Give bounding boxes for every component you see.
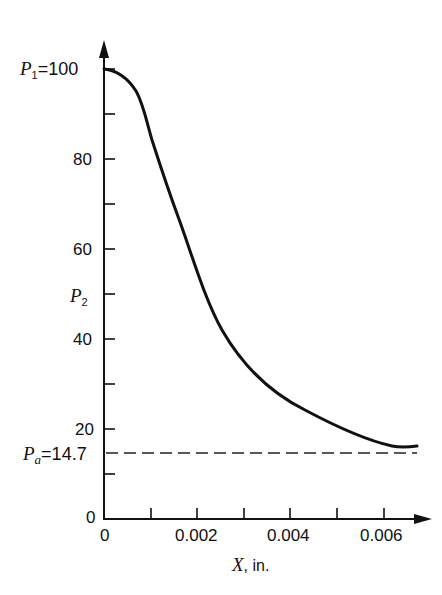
y-tick-label-60: 60 xyxy=(73,241,92,258)
x-tick-label-0: 0 xyxy=(100,527,109,544)
x-ticks xyxy=(151,508,384,519)
pressure-curve xyxy=(104,69,417,447)
p2-symbol: P xyxy=(70,285,82,306)
y-tick-label-80: 80 xyxy=(73,151,92,168)
y-ticks xyxy=(104,69,115,474)
y-tick-label-20: 20 xyxy=(75,421,94,438)
p1-value: =100 xyxy=(38,59,79,79)
x-unit: , in. xyxy=(244,557,270,574)
x-tick-label-0002: 0.002 xyxy=(175,527,218,544)
p1-label: P1=100 xyxy=(20,59,78,81)
y-tick-label-40: 40 xyxy=(73,331,92,348)
pa-symbol: P xyxy=(23,443,35,464)
p1-symbol: P xyxy=(20,58,32,79)
p2-subscript: 2 xyxy=(82,296,88,308)
x-tick-label-0004: 0.004 xyxy=(267,527,310,544)
x-symbol: X xyxy=(232,554,244,575)
x-axis-arrow-icon xyxy=(414,514,432,524)
x-axis-label: X, in. xyxy=(232,555,269,574)
y-axis-arrow-icon xyxy=(99,40,109,58)
pa-label: Pa=14.7 xyxy=(23,444,87,466)
chart-plot xyxy=(0,0,442,595)
x-tick-label-0006: 0.006 xyxy=(360,527,403,544)
p2-axis-label: P2 xyxy=(70,286,88,308)
pa-value: =14.7 xyxy=(41,444,87,464)
y-tick-label-0: 0 xyxy=(86,509,95,526)
